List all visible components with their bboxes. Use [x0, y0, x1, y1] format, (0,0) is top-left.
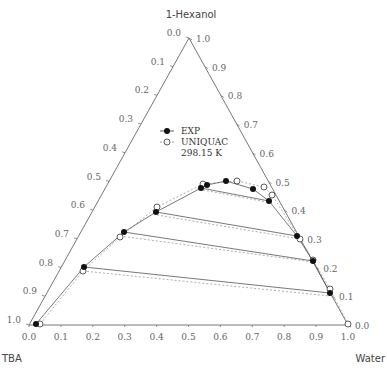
bottom-tick-label: 0.2 [86, 332, 100, 342]
left-tick [170, 66, 173, 67]
right-tick-label: 0.7 [244, 120, 259, 130]
exp-point [294, 233, 300, 239]
right-tick-label: 0.3 [307, 235, 322, 245]
left-tick-label: 0.8 [39, 258, 54, 268]
left-tick [74, 238, 77, 239]
bottom-tick-label: 0.0 [22, 332, 37, 342]
exp-point [33, 321, 39, 327]
right-tick-label: 0.0 [355, 321, 370, 331]
uniquac-point [117, 234, 123, 240]
bottom-tick-label: 0.9 [309, 332, 324, 342]
left-tick [58, 267, 61, 268]
uniquac-point [261, 184, 267, 190]
exp-point [266, 198, 272, 204]
left-tick-label: 0.1 [151, 57, 165, 67]
triangle-frame [29, 38, 348, 325]
left-tick [138, 123, 141, 124]
tie-line-calc [203, 190, 272, 203]
tie-line-exp [201, 188, 269, 201]
right-tick-label: 1.0 [196, 34, 211, 44]
vertex-label-hexanol: 1-Hexanol [166, 9, 217, 20]
left-tick-label: 0.3 [119, 114, 134, 124]
bottom-tick-label: 0.3 [118, 332, 133, 342]
left-tick [122, 152, 125, 153]
bottom-tick-label: 0.8 [277, 332, 292, 342]
right-tick-label: 0.5 [276, 178, 291, 188]
left-tick [106, 181, 109, 182]
uniquac-point [345, 321, 351, 327]
bottom-tick-label: 1.0 [341, 332, 356, 342]
left-tick-label: 0.0 [167, 28, 182, 38]
legend-marker-exp [164, 128, 170, 134]
tie-line-calc [157, 215, 300, 239]
left-tick-label: 0.7 [55, 229, 70, 239]
left-tick [42, 295, 45, 296]
right-tick-label: 0.6 [260, 149, 275, 159]
vertex-label-water: Water [355, 353, 385, 364]
bottom-tick-label: 0.4 [149, 332, 164, 342]
uniquac-point [154, 204, 160, 210]
left-tick-label: 0.6 [71, 200, 86, 210]
left-tick-label: 0.9 [23, 286, 38, 296]
exp-point [223, 178, 229, 184]
left-tick [90, 209, 93, 210]
exp-point [204, 182, 210, 188]
legend-label-calc: UNIQUAC [181, 137, 228, 147]
legend-marker-calc [164, 139, 170, 145]
tie-line-calc [83, 271, 330, 296]
right-tick-label: 0.9 [212, 63, 227, 73]
bottom-tick-label: 0.6 [213, 332, 228, 342]
vertex-label-tba: TBA [1, 353, 22, 364]
binodal-curve-calc [40, 181, 348, 324]
tie-line-exp [84, 267, 330, 293]
bottom-tick-label: 0.5 [181, 332, 196, 342]
bottom-tick-label: 0.7 [245, 332, 260, 342]
exp-point [250, 186, 256, 192]
legend-label-exp: EXP [181, 126, 200, 136]
exp-point [121, 229, 127, 235]
exp-point [153, 209, 159, 215]
legend-temperature: 298.15 K [181, 148, 222, 158]
tie-line-exp [156, 212, 297, 236]
tie-line-calc [120, 236, 313, 262]
right-tick-label: 0.4 [291, 206, 306, 216]
exp-point [310, 258, 316, 264]
exp-point [327, 290, 333, 296]
right-tick-label: 0.2 [323, 264, 337, 274]
uniquac-point [269, 192, 275, 198]
ternary-diagram: 0.01.00.00.10.90.10.20.80.20.30.70.30.40… [0, 0, 387, 368]
right-tick-label: 0.1 [339, 292, 353, 302]
left-tick-label: 1.0 [7, 315, 22, 325]
left-tick [154, 94, 157, 95]
uniquac-point [234, 178, 240, 184]
right-tick-label: 0.8 [228, 91, 243, 101]
left-tick-label: 0.2 [135, 85, 149, 95]
left-tick-label: 0.5 [87, 172, 102, 182]
left-tick [26, 324, 29, 325]
bottom-tick-label: 0.1 [54, 332, 68, 342]
left-tick [186, 37, 189, 38]
exp-point [198, 185, 204, 191]
exp-point [81, 264, 87, 270]
left-tick-label: 0.4 [103, 143, 118, 153]
